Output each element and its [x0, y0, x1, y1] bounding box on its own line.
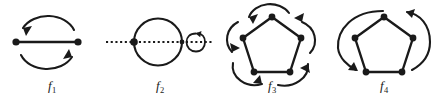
vertex-f1-right	[74, 38, 81, 45]
vertex-f4-lower-right	[399, 69, 406, 76]
figure-label-f3-subscript: 3	[272, 85, 276, 95]
figure-label-f4: f4	[328, 78, 440, 94]
figure-label-f3: f3	[216, 78, 328, 94]
figure-label-f4-subscript: 4	[384, 85, 388, 95]
pentagon-edges-f4	[355, 17, 413, 72]
arc-f4-right	[407, 12, 430, 70]
vertex-f1-left	[12, 38, 19, 45]
figure-panel-f4: f4	[328, 0, 440, 109]
vertex-f2-left	[130, 38, 138, 46]
vertex-f3-upper-left	[240, 35, 247, 42]
pentagon-edges-f3	[243, 17, 301, 72]
figure-panel-f3: f3	[216, 0, 328, 109]
figure-label-f1: f1	[0, 78, 104, 94]
figure-label-f1-subscript: 1	[52, 85, 56, 95]
vertex-f3-lower-left	[251, 69, 258, 76]
figure-label-f2: f2	[104, 78, 216, 94]
vertex-f2-right	[180, 40, 185, 45]
vertex-f4-upper-right	[410, 35, 417, 42]
figure-label-f2-subscript: 2	[160, 85, 164, 95]
vertex-f4-lower-left	[363, 69, 370, 76]
vertex-f3-lower-right	[287, 69, 294, 76]
figure-row: f1 f2	[0, 0, 440, 109]
arc-f4-left	[338, 11, 383, 70]
vertex-f3-top	[269, 14, 276, 21]
figure-panel-f1: f1	[0, 0, 104, 109]
arrowhead-f3-5	[294, 13, 304, 22]
vertex-f4-top	[381, 14, 388, 21]
vertex-f3-upper-right	[298, 35, 305, 42]
figure-panel-f2: f2	[104, 0, 216, 109]
vertex-f4-upper-left	[352, 35, 359, 42]
arrowhead-rotation-f2	[196, 31, 202, 37]
